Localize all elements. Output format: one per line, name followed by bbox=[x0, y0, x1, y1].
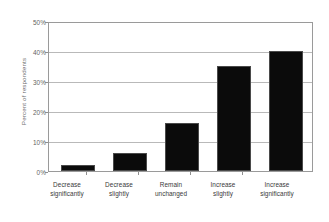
x-tick-mark-3 bbox=[190, 172, 191, 175]
x-tick-mark-4 bbox=[242, 172, 243, 175]
bar-remain-unchanged bbox=[165, 123, 199, 171]
y-tick-label-20: 20% bbox=[6, 109, 46, 116]
plot-area bbox=[48, 22, 313, 172]
y-tick-label-50: 50% bbox=[6, 19, 46, 26]
x-tick-mark-2 bbox=[138, 172, 139, 175]
bar-decrease-slightly bbox=[113, 153, 147, 171]
y-tick-label-10: 10% bbox=[6, 139, 46, 146]
bar-decrease-significantly bbox=[61, 165, 95, 171]
y-tick-label-0: 0% bbox=[6, 169, 46, 176]
x-category-line-1: Increase bbox=[243, 180, 311, 189]
bar-increase-slightly bbox=[217, 66, 251, 171]
y-tick-label-40: 40% bbox=[6, 49, 46, 56]
y-tick-mark-0 bbox=[45, 172, 48, 173]
bar-increase-significantly bbox=[269, 51, 303, 171]
x-category-label-increase-significantly: Increase significantly bbox=[243, 180, 311, 198]
y-tick-label-30: 30% bbox=[6, 79, 46, 86]
bar-chart-figure: Percent of respondents 50% 40% 30% 20% 1… bbox=[0, 0, 329, 222]
x-tick-mark-1 bbox=[86, 172, 87, 175]
x-category-line-2: significantly bbox=[243, 189, 311, 198]
